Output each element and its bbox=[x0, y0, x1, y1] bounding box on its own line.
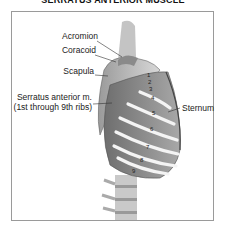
label-coracoid: Coracoid bbox=[56, 45, 96, 55]
anatomy-illustration: 1 2 3 4 5 6 7 8 9 bbox=[0, 0, 226, 233]
label-acromion: Acromion bbox=[60, 31, 98, 41]
label-serratus-anterior: Serratus anterior m. (1st through 9th ri… bbox=[10, 92, 92, 112]
label-serratus-line2: (1st through 9th ribs) bbox=[10, 102, 92, 112]
label-serratus-line1: Serratus anterior m. bbox=[10, 92, 92, 102]
thoracic-spine bbox=[102, 175, 137, 220]
label-sternum: Sternum bbox=[182, 103, 214, 113]
label-scapula: Scapula bbox=[56, 66, 94, 76]
cervical-spine bbox=[118, 21, 136, 60]
